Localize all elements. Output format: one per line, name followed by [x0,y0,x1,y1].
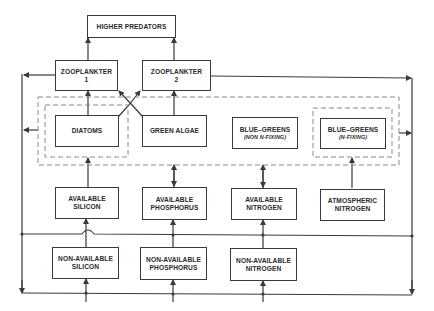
zooplankter-2-box: ZOOPLANKTER 2 [142,60,211,91]
blue-greens-fixing-box: BLUE–GREENS (N-FIXING) [320,118,386,149]
non-available-silicon-box: NON-AVAILABLE SILICON [52,247,119,279]
arrow-algae-to-zoo1 [119,91,143,117]
atmospheric-nitrogen-box: ATMOSPHERIC NITROGEN [320,189,385,221]
blue-greens-non-fixing-box: BLUE–GREENS (NON N-FIXING) [232,117,298,149]
zooplankter-1-box: ZOOPLANKTER 1 [55,60,118,91]
non-available-phosphorus-box: NON-AVAILABLE PHOSPHORUS [140,247,207,280]
green-algae-box: GREEN ALGAE [142,115,207,147]
available-silicon-sublabel: SILICON [73,203,100,211]
non-available-silicon-sublabel: SILICON [72,263,99,271]
blue-greens-non-fixing-label: BLUE–GREENS [240,126,291,134]
non-available-silicon-label: NON-AVAILABLE [58,255,113,263]
non-available-nitrogen-sublabel: NITROGEN [246,265,282,273]
available-nitrogen-sublabel: NITROGEN [246,204,282,212]
non-available-phosphorus-sublabel: PHOSPHORUS [150,264,198,272]
available-phosphorus-box: AVAILABLE PHOSPHORUS [142,187,207,220]
available-silicon-box: AVAILABLE SILICON [55,187,119,219]
available-nitrogen-label: AVAILABLE [245,196,283,204]
non-available-phosphorus-label: NON-AVAILABLE [146,256,201,264]
atmospheric-nitrogen-sublabel: NITROGEN [335,205,371,213]
zooplankter-1-number: 1 [85,76,89,84]
diatoms-label: DIATOMS [72,127,103,135]
atmospheric-nitrogen-label: ATMOSPHERIC [328,197,377,205]
available-silicon-label: AVAILABLE [68,195,106,203]
available-phosphorus-label: AVAILABLE [156,196,194,204]
higher-predators-label: HIGHER PREDATORS [97,23,167,31]
arrow-zoo2-to-right-bus [210,76,411,78]
zooplankter-2-number: 2 [175,76,179,84]
available-nitrogen-box: AVAILABLE NITROGEN [231,188,297,220]
bottom-bus-line [22,293,412,295]
blue-greens-non-fixing-sublabel: (NON N-FIXING) [244,134,286,141]
blue-greens-fixing-label: BLUE–GREENS [328,126,379,134]
arrow-diatoms-to-zoo2 [118,91,140,117]
zooplankter-1-label: ZOOPLANKTER [61,68,112,76]
higher-predators-box: HIGHER PREDATORS [87,15,176,38]
diatoms-box: DIATOMS [55,115,119,147]
zooplankter-2-label: ZOOPLANKTER [151,68,202,76]
non-available-nitrogen-label: NON-AVAILABLE [236,257,291,265]
available-phosphorus-sublabel: PHOSPHORUS [151,204,199,212]
non-available-nitrogen-box: NON-AVAILABLE NITROGEN [230,248,297,281]
middle-bus-line [22,230,412,236]
green-algae-label: GREEN ALGAE [150,127,199,135]
blue-greens-fixing-sublabel: (N-FIXING) [339,134,367,141]
